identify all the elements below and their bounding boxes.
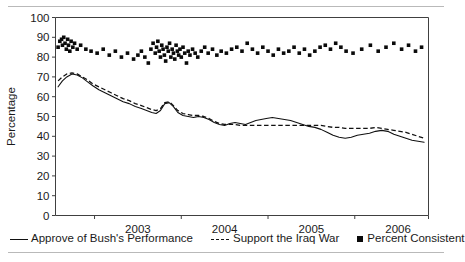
y-tick-label: 100 [30, 12, 49, 24]
legend-label-consistent: Percent Consistent [367, 233, 464, 245]
legend-entry-consistent: Percent Consistent [357, 233, 464, 245]
data-point-square [159, 55, 163, 59]
data-point-square [84, 47, 88, 51]
data-point-square [68, 49, 72, 53]
data-point-square [292, 45, 296, 49]
data-point-square [219, 49, 223, 53]
data-point-square [414, 49, 418, 53]
data-point-square [186, 49, 190, 53]
data-point-square [277, 47, 281, 51]
data-point-square [62, 36, 66, 40]
data-point-square [240, 49, 244, 53]
data-point-square [157, 49, 161, 53]
data-point-square [156, 39, 160, 43]
data-point-square [174, 43, 178, 47]
data-point-square [161, 47, 165, 51]
dashed-line-key-icon [211, 239, 229, 240]
data-point-square [126, 51, 130, 55]
data-point-square [256, 51, 260, 55]
data-point-square [65, 47, 69, 51]
data-point-square [166, 49, 170, 53]
data-point-square [169, 55, 173, 59]
data-point-square [215, 53, 219, 57]
data-point-square [271, 53, 275, 57]
legend-entry-approve: Approve of Bush's Performance [10, 233, 193, 245]
data-point-square [235, 45, 239, 49]
y-tick-label: 90 [37, 31, 50, 43]
data-point-square [107, 53, 111, 57]
data-point-square [151, 41, 155, 45]
legend-entry-support: Support the Iraq War [211, 233, 339, 245]
data-point-square [196, 55, 200, 59]
data-point-square [75, 47, 79, 51]
data-point-square [303, 47, 307, 51]
y-tick-label: 10 [37, 190, 50, 202]
y-tick-label: 20 [37, 170, 50, 182]
data-point-square [160, 43, 164, 47]
y-tick-label: 40 [37, 130, 50, 142]
data-point-square [183, 51, 187, 55]
y-tick-label: 30 [37, 150, 50, 162]
solid-line-key-icon [10, 239, 28, 240]
data-point-square [376, 49, 380, 53]
series-layer [56, 36, 424, 143]
data-point-square [56, 45, 60, 49]
data-point-square [282, 51, 286, 55]
data-point-square [203, 45, 207, 49]
data-point-square [251, 47, 255, 51]
data-point-square [400, 47, 404, 51]
data-point-square [79, 43, 83, 47]
data-point-square [211, 47, 215, 51]
data-point-square [164, 59, 168, 63]
data-point-square [266, 49, 270, 53]
data-point-square [153, 51, 157, 55]
data-point-square [136, 53, 140, 57]
data-point-square [230, 47, 234, 51]
y-tick-label: 0 [43, 210, 49, 222]
data-point-square [73, 41, 77, 45]
y-tick-label: 80 [37, 51, 50, 63]
data-point-square [407, 43, 411, 47]
data-point-square [71, 45, 75, 49]
data-point-square [206, 51, 210, 55]
series-support-iraq-war [58, 73, 424, 138]
data-point-square [369, 43, 373, 47]
series-approve-bush-performance [58, 74, 424, 142]
data-point-square [225, 51, 229, 55]
data-point-square [245, 41, 249, 45]
data-point-square [297, 51, 301, 55]
data-point-square [149, 47, 153, 51]
data-point-square [261, 45, 265, 49]
data-point-square [344, 49, 348, 53]
legend-label-support: Support the Iraq War [233, 233, 339, 245]
data-point-square [140, 49, 144, 53]
data-point-square [360, 47, 364, 51]
data-point-square [287, 49, 291, 53]
data-point-square [66, 37, 70, 41]
data-point-square [323, 43, 327, 47]
data-point-square [199, 49, 203, 53]
series-percent-consistent [56, 36, 423, 65]
data-point-square [188, 53, 192, 57]
data-point-square [168, 41, 172, 45]
legend-label-approve: Approve of Bush's Performance [31, 233, 193, 245]
y-tick-label: 70 [37, 71, 50, 83]
data-point-square [308, 53, 312, 57]
data-point-square [69, 39, 73, 43]
data-point-square [334, 41, 338, 45]
chart-legend: Approve of Bush's Performance Support th… [10, 231, 444, 247]
axis-frame [56, 18, 429, 216]
data-point-square [172, 51, 176, 55]
data-point-square [351, 51, 355, 55]
data-point-square [114, 49, 118, 53]
data-point-square [191, 47, 195, 51]
data-point-square [318, 45, 322, 49]
data-point-square [101, 47, 105, 51]
data-point-square [384, 45, 388, 49]
data-point-square [420, 45, 424, 49]
data-point-square [147, 61, 151, 65]
square-marker-key-icon [357, 236, 363, 242]
data-point-square [392, 41, 396, 45]
